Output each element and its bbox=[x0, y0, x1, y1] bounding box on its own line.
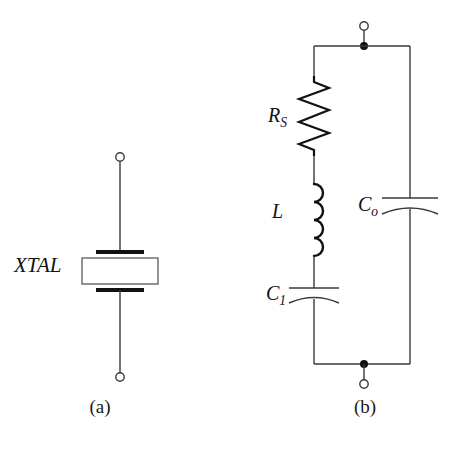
inductor-l-coils bbox=[314, 184, 323, 256]
crystal-bottom-terminal-circle bbox=[116, 373, 124, 381]
schematic-drawing bbox=[0, 0, 451, 449]
circuit-figure: XTAL RS L C1 Co (a) (b) bbox=[0, 0, 451, 449]
circuit-bottom-terminal-circle bbox=[360, 380, 368, 388]
capacitor-co-label: Co bbox=[358, 193, 378, 220]
crystal-label-xtal: XTAL bbox=[14, 253, 61, 278]
panel-b-caption: (b) bbox=[325, 396, 405, 418]
capacitor-c1-label: C1 bbox=[266, 282, 286, 309]
circuit-top-terminal-circle bbox=[360, 22, 368, 30]
resistor-rs-zigzag bbox=[299, 76, 329, 156]
resistor-rs-label: RS bbox=[268, 104, 287, 131]
crystal-top-terminal-circle bbox=[116, 153, 124, 161]
panel-a-caption: (a) bbox=[60, 396, 140, 418]
crystal-body-rectangle bbox=[82, 258, 158, 284]
panel-a-crystal-symbol bbox=[82, 153, 158, 381]
inductor-l-label: L bbox=[272, 200, 283, 223]
